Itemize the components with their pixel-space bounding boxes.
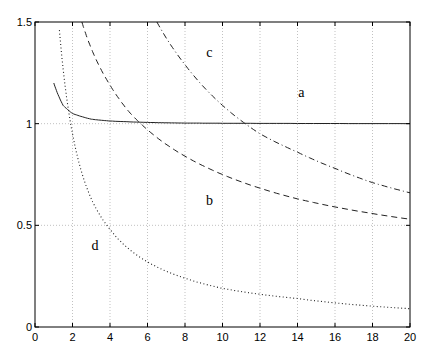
x-tick-label: 14 bbox=[291, 331, 303, 343]
x-tick-label: 10 bbox=[216, 331, 228, 343]
x-tick-label: 12 bbox=[254, 331, 266, 343]
y-tick-label: 1.5 bbox=[17, 16, 32, 28]
curve-label-a: a bbox=[298, 85, 305, 100]
x-tick-label: 6 bbox=[144, 331, 150, 343]
curve-label-b: b bbox=[206, 193, 213, 208]
x-tick-label: 16 bbox=[329, 331, 341, 343]
x-tick-label: 2 bbox=[69, 331, 75, 343]
curve-label-d: d bbox=[92, 238, 99, 253]
x-tick-label: 4 bbox=[107, 331, 113, 343]
x-tick-label: 20 bbox=[404, 331, 416, 343]
x-tick-label: 0 bbox=[32, 331, 38, 343]
y-tick-label: 1 bbox=[26, 118, 32, 130]
x-tick-label: 8 bbox=[182, 331, 188, 343]
line-chart: 0246810121416182000.511.5abcd bbox=[0, 0, 433, 359]
series-c-line bbox=[157, 22, 410, 193]
series-b-line bbox=[82, 22, 410, 219]
series-d-line bbox=[59, 30, 410, 309]
y-tick-label: 0 bbox=[26, 321, 32, 333]
series-a-line bbox=[54, 83, 410, 124]
x-tick-label: 18 bbox=[366, 331, 378, 343]
curve-label-c: c bbox=[206, 45, 212, 60]
y-tick-label: 0.5 bbox=[17, 219, 32, 231]
